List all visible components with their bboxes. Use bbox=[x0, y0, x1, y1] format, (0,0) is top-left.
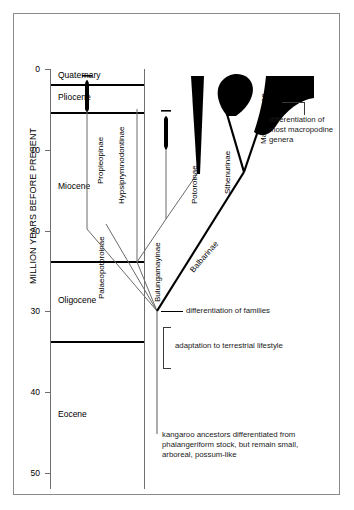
epoch-label-miocene: Miocene bbox=[58, 182, 90, 191]
annotation-terrestrial: adaptation to terrestrial lifestyle bbox=[175, 341, 335, 351]
axis-tick-mark bbox=[45, 473, 50, 474]
taxon-label-macropodinae: Macropodinae bbox=[260, 93, 268, 144]
axis-tick-mark bbox=[45, 150, 50, 151]
taxon-label-palaeopotoroinae: Palaeopotoroinae bbox=[98, 236, 106, 299]
taxon-label-hypsiprymnodontinae: Hypsiprymnodontinae bbox=[118, 127, 126, 204]
epoch-label-oligocene: Oligocene bbox=[58, 296, 96, 305]
axis-tick-mark bbox=[45, 392, 50, 393]
epoch-label-pliocene: Pliocene bbox=[58, 93, 91, 102]
epoch-boundary-rule bbox=[51, 341, 144, 343]
axis-tick-label: 10 bbox=[14, 146, 40, 155]
epoch-boundary-rule bbox=[51, 84, 144, 86]
annotation-macropodine-genera: differentiation of most macropodine gene… bbox=[269, 115, 335, 145]
branch-palaeopotoroinae-inner bbox=[106, 224, 157, 311]
axis-tick-label: 20 bbox=[14, 227, 40, 236]
axis-tick-label: 0 bbox=[14, 65, 40, 74]
taxon-label-bulungamayinae: Bulungamayinae bbox=[154, 242, 162, 302]
cap-bulungamayinae bbox=[161, 110, 171, 112]
annotation-families: differentiation of families bbox=[186, 306, 326, 316]
annotation-ancestors: kangaroo ancestors differentiated from p… bbox=[162, 430, 330, 460]
epoch-column-divider bbox=[144, 69, 145, 489]
phylogenetic-tree bbox=[14, 14, 341, 496]
y-axis-line bbox=[50, 69, 51, 489]
axis-tick-label: 40 bbox=[14, 388, 40, 397]
epoch-boundary-rule bbox=[51, 112, 144, 114]
leader-line-families bbox=[161, 311, 183, 312]
diagram-frame: MILLION YEARS BEFORE PRESENT 01020304050… bbox=[13, 13, 340, 495]
axis-tick-label: 50 bbox=[14, 469, 40, 478]
spindle-sthenurinae bbox=[218, 74, 253, 116]
axis-tick-mark bbox=[45, 231, 50, 232]
taxon-label-sthenurinae: Sthenurinae bbox=[224, 151, 232, 194]
taxon-label-propleopinae: Propleopinae bbox=[97, 137, 105, 184]
y-axis-title: MILLION YEARS BEFORE PRESENT bbox=[28, 134, 38, 284]
bracket-terrestrial bbox=[163, 327, 171, 369]
taxon-label-potoroinae: Potoroinae bbox=[191, 165, 199, 204]
epoch-label-eocene: Eocene bbox=[58, 410, 87, 419]
spindle-potoroinae bbox=[191, 76, 204, 174]
bracket-macropodine-genera bbox=[282, 102, 305, 115]
axis-tick-mark bbox=[45, 69, 50, 70]
epoch-label-quaternary: Quaternary bbox=[58, 71, 101, 80]
axis-tick-mark bbox=[45, 311, 50, 312]
taxon-label-balbarinae: Balbarinae bbox=[189, 240, 220, 274]
spindle-bulungamayinae bbox=[164, 116, 168, 150]
axis-tick-label: 30 bbox=[14, 307, 40, 316]
